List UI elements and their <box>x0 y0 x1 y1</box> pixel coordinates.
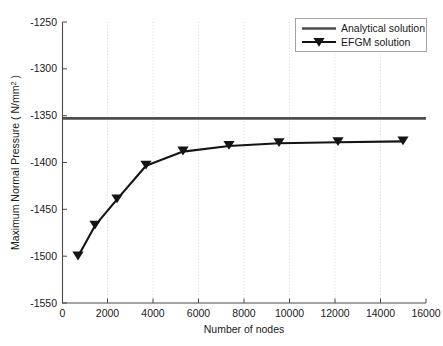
y-tick-labels: -1250 -1300 -1350 -1400 -1450 -1500 -155… <box>30 16 57 309</box>
x-tick-label: 16000 <box>411 307 440 319</box>
chart-canvas: -1250 -1300 -1350 -1400 -1450 -1500 -155… <box>0 0 443 346</box>
y-tick-label: -1350 <box>30 109 57 121</box>
y-tick-label: -1550 <box>30 297 57 309</box>
x-tick-label: 14000 <box>366 307 395 319</box>
x-tick-labels: 0 2000 4000 6000 8000 10000 12000 14000 … <box>60 307 441 319</box>
x-axis-title: Number of nodes <box>204 323 285 335</box>
y-tick-label: -1500 <box>30 250 57 262</box>
y-tick-label: -1300 <box>30 62 57 74</box>
chart-figure: -1250 -1300 -1350 -1400 -1450 -1500 -155… <box>0 0 443 346</box>
x-tick-label: 8000 <box>232 307 256 319</box>
y-axis-title-main: Maximum Normal Pressure ( N/mm <box>9 85 21 250</box>
x-tick-label: 6000 <box>187 307 211 319</box>
x-tick-label: 10000 <box>275 307 304 319</box>
y-axis-title: Maximum Normal Pressure ( N/mm2 ) <box>9 75 22 250</box>
legend: Analytical solution EFGM solution <box>296 19 427 52</box>
y-axis-title-tail: ) <box>9 75 21 81</box>
y-tick-label: -1400 <box>30 156 57 168</box>
y-tick-label: -1450 <box>30 203 57 215</box>
svg-text:Maximum Normal Pressure ( N/mm: Maximum Normal Pressure ( N/mm2 ) <box>9 75 22 250</box>
x-tick-label: 2000 <box>96 307 120 319</box>
legend-label-analytical-solution: Analytical solution <box>341 22 425 34</box>
x-tick-label: 12000 <box>320 307 349 319</box>
y-tick-label: -1250 <box>30 16 57 28</box>
x-tick-label: 4000 <box>141 307 165 319</box>
x-tick-label: 0 <box>60 307 66 319</box>
legend-label-efgm-solution: EFGM solution <box>341 36 411 48</box>
